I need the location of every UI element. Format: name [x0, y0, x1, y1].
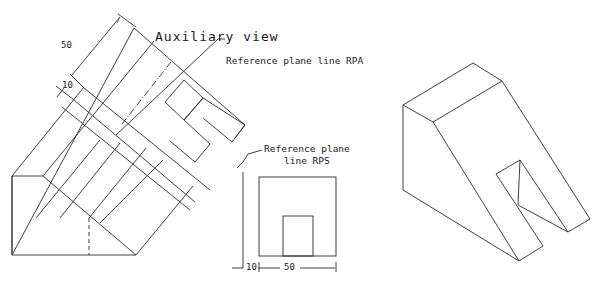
elevation-view	[12, 28, 193, 255]
front-dim-10: 10	[246, 262, 257, 272]
aux-dim-50: 50	[61, 40, 72, 50]
rpa-label: Reference plane line RPA	[226, 55, 363, 66]
auxiliary-view-title: Auxiliary view	[155, 29, 279, 44]
isometric-view	[403, 63, 590, 261]
front-view	[232, 150, 336, 272]
aux-dim-10: 10	[62, 80, 73, 90]
front-dim-50: 50	[284, 262, 295, 272]
technical-drawing	[0, 0, 603, 283]
rps-label-line1: Reference plane	[264, 143, 350, 154]
rps-label-line2: line RPS	[284, 155, 330, 166]
